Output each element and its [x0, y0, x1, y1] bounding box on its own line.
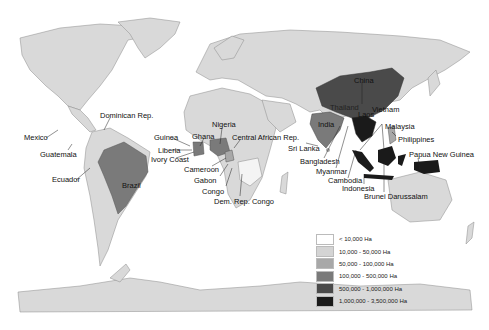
- java-region: [364, 174, 394, 180]
- label-nigeria: Nigeria: [212, 121, 236, 129]
- legend-swatch: [316, 234, 334, 245]
- india-region: [310, 112, 344, 148]
- label-thailand: Thailand: [330, 104, 359, 112]
- legend-item: 1,000,000 - 3,500,000 Ha: [316, 295, 407, 307]
- label-papua-new-guinea: Papua New Guinea: [409, 151, 474, 159]
- legend-swatch: [316, 271, 334, 282]
- sulawesi-region: [398, 154, 406, 166]
- north-america: [20, 24, 150, 110]
- label-dominican-rep: Dominican Rep.: [100, 112, 153, 120]
- borneo-region: [378, 146, 396, 166]
- label-ecuador: Ecuador: [52, 176, 80, 184]
- legend-item: 100,000 - 500,000 Ha: [316, 270, 407, 282]
- new-zealand: [466, 222, 474, 244]
- label-china: China: [354, 77, 374, 85]
- legend-item: 500,000 - 1,000,000 Ha: [316, 283, 407, 295]
- ghana-region: [193, 142, 204, 156]
- label-liberia: Liberia: [158, 147, 181, 155]
- label-gabon: Gabon: [194, 177, 217, 185]
- legend-label: 50,000 - 100,000 Ha: [339, 261, 394, 267]
- legend-swatch: [316, 246, 334, 257]
- madagascar: [280, 172, 288, 194]
- label-guinea: Guinea: [154, 134, 178, 142]
- legend-swatch: [316, 296, 334, 307]
- se-asia-mainland: [352, 116, 376, 142]
- label-dem-rep-congo: Dem. Rep. Congo: [214, 198, 274, 206]
- label-brazil: Brazil: [122, 182, 141, 190]
- label-central-african-rep: Central African Rep.: [232, 134, 299, 142]
- legend-label: 500,000 - 1,000,000 Ha: [339, 286, 402, 292]
- label-ghana: Ghana: [192, 133, 215, 141]
- label-ivory-coast: Ivory Coast: [151, 156, 189, 164]
- label-myanmar: Myanmar: [316, 168, 347, 176]
- legend-item: 50,000 - 100,000 Ha: [316, 258, 407, 270]
- label-mexico: Mexico: [24, 134, 48, 142]
- label-congo: Congo: [202, 188, 224, 196]
- label-india: India: [318, 121, 334, 129]
- legend-item: < 10,000 Ha: [316, 233, 407, 245]
- legend-label: 10,000 - 50,000 Ha: [339, 249, 390, 255]
- legend-item: 10,000 - 50,000 Ha: [316, 245, 407, 257]
- label-sri-lanka: Sri Lanka: [288, 145, 320, 153]
- legend: < 10,000 Ha 10,000 - 50,000 Ha 50,000 - …: [316, 233, 407, 307]
- label-bangladesh: Bangladesh: [300, 158, 340, 166]
- legend-swatch: [316, 283, 334, 294]
- legend-swatch: [316, 258, 334, 269]
- legend-label: < 10,000 Ha: [339, 236, 372, 242]
- central-america: [68, 106, 96, 132]
- papua-region: [414, 160, 440, 174]
- label-philippines: Philippines: [398, 136, 434, 144]
- label-vietnam: Vietnam: [372, 106, 399, 114]
- legend-label: 1,000,000 - 3,500,000 Ha: [339, 298, 407, 304]
- label-guatemala: Guatemala: [40, 151, 77, 159]
- legend-label: 100,000 - 500,000 Ha: [339, 273, 397, 279]
- label-brunei: Brunei Darussalam: [364, 193, 428, 201]
- label-malaysia: Malaysia: [385, 123, 415, 131]
- world-map: [0, 0, 489, 330]
- label-cameroon: Cameroon: [184, 166, 219, 174]
